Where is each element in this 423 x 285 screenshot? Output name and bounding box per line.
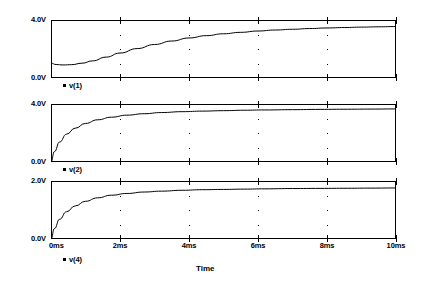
x-tick-label: 8ms [320, 242, 335, 250]
legend-v2-label: v(2) [69, 165, 82, 174]
plot-panel-v1: 4.0V 0.0V [51, 20, 396, 78]
plot-panel-v2: 4.0V 0.0V [51, 104, 396, 162]
panel-v4-ytick-top: 2.0V [31, 177, 46, 185]
panel-v1-ytick-top: 4.0V [31, 16, 46, 24]
panel-v2-ytick-top: 4.0V [31, 100, 46, 108]
legend-v1-label: v(1) [69, 81, 82, 90]
tick-bottom [396, 74, 397, 81]
legend-v4-swatch [63, 258, 66, 261]
panel-v4-ytick-bottom: 0.0V [31, 235, 46, 243]
pspice-transient-plot: 4.0V 0.0V v(1) 4.0V 0.0V v(2) 2.0V 0.0V … [0, 0, 423, 285]
legend-v1-swatch [63, 84, 66, 87]
tick-top [396, 101, 397, 108]
panel-v4-trace [51, 181, 396, 239]
tick-bottom [396, 158, 397, 165]
x-tick-label: 2ms [113, 242, 128, 250]
legend-v1[interactable]: v(1) [63, 81, 82, 90]
panel-v1-ytick-bottom: 0.0V [31, 74, 46, 82]
legend-v2[interactable]: v(2) [63, 165, 82, 174]
x-tick-label: 6ms [251, 242, 266, 250]
x-tick-label: 4ms [182, 242, 197, 250]
legend-v2-swatch [63, 168, 66, 171]
tick-top [396, 17, 397, 24]
panel-v2-ytick-bottom: 0.0V [31, 158, 46, 166]
panel-v1-trace [51, 20, 396, 78]
x-tick-label: 0ms [49, 242, 64, 250]
plot-panel-v4: 2.0V 0.0V 0ms2ms4ms6ms8ms10ms [51, 181, 396, 239]
legend-v4-label: v(4) [69, 255, 82, 264]
x-axis-title: Time [196, 264, 215, 273]
tick-top [396, 178, 397, 185]
legend-v4[interactable]: v(4) [63, 255, 82, 264]
panel-v2-trace [51, 104, 396, 162]
x-tick-label: 10ms [387, 242, 406, 250]
